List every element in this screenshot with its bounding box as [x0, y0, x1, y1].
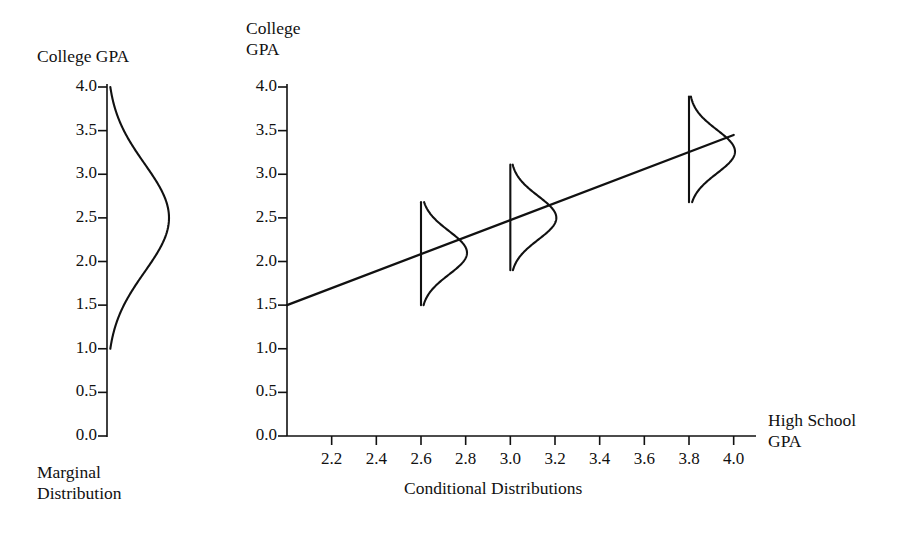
x-tick-2.6: 2.6 — [399, 449, 443, 469]
left-y-tick-3.0: 3.0 — [53, 163, 97, 183]
left-y-tick-1.0: 1.0 — [53, 338, 97, 358]
conditional-distributions-caption: Conditional Distributions — [404, 478, 582, 499]
left-y-tick-3.5: 3.5 — [53, 120, 97, 140]
x-axis-title: High SchoolGPA — [768, 410, 856, 452]
left-y-tick-0.5: 0.5 — [53, 381, 97, 401]
conditional-density-2.6 — [424, 202, 467, 305]
x-tick-3.8: 3.8 — [667, 449, 711, 469]
x-tick-3.6: 3.6 — [622, 449, 666, 469]
left-y-tick-2.5: 2.5 — [53, 207, 97, 227]
right-y-tick-2.5: 2.5 — [233, 207, 277, 227]
right-y-tick-4.0: 4.0 — [233, 76, 277, 96]
x-tick-2.2: 2.2 — [310, 449, 354, 469]
x-tick-3.0: 3.0 — [488, 449, 532, 469]
x-tick-2.4: 2.4 — [354, 449, 398, 469]
x-tick-4.0: 4.0 — [712, 449, 756, 469]
x-tick-2.8: 2.8 — [444, 449, 488, 469]
x-tick-3.4: 3.4 — [578, 449, 622, 469]
right-y-tick-3.5: 3.5 — [233, 120, 277, 140]
x-tick-3.2: 3.2 — [533, 449, 577, 469]
right-y-tick-1.0: 1.0 — [233, 338, 277, 358]
right-panel-axis-title: CollegeGPA — [246, 18, 300, 60]
left-y-tick-1.5: 1.5 — [53, 294, 97, 314]
marginal-distribution-caption: MarginalDistribution — [37, 462, 122, 504]
left-y-tick-4.0: 4.0 — [53, 76, 97, 96]
right-y-tick-3.0: 3.0 — [233, 163, 277, 183]
figure-canvas: College GPA MarginalDistribution College… — [0, 0, 904, 533]
right-y-tick-0.5: 0.5 — [233, 381, 277, 401]
left-y-tick-0.0: 0.0 — [53, 425, 97, 445]
left-panel-axis-title: College GPA — [37, 46, 129, 67]
right-y-tick-0.0: 0.0 — [233, 425, 277, 445]
right-y-tick-2.0: 2.0 — [233, 251, 277, 271]
left-y-tick-2.0: 2.0 — [53, 251, 97, 271]
right-y-tick-1.5: 1.5 — [233, 294, 277, 314]
